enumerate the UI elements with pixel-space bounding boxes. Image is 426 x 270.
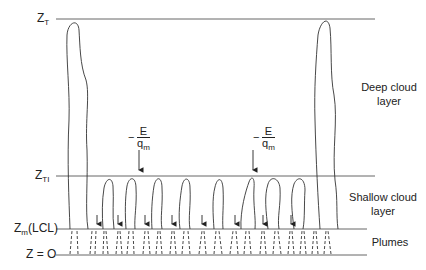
level-label-zti: ZTI [35, 169, 49, 183]
level-label-zm: Zm(LCL) [14, 222, 58, 236]
deep-cloud-right [315, 21, 338, 229]
fraction-denominator: qm [137, 138, 150, 150]
level-label-zt: ZT [37, 12, 49, 26]
region-label-deep: Deep cloud layer [352, 80, 426, 108]
entrainment-label-right: − E qm [262, 126, 275, 150]
region-label-plumes: Plumes [355, 235, 425, 249]
level-subscript: m [21, 228, 28, 237]
shallow-clouds [102, 178, 305, 229]
level-label-z0: Z = O [26, 248, 56, 261]
subsidence-arrows [97, 215, 291, 224]
region-label-shallow: Shallow cloud layer [340, 190, 426, 218]
region-label-line: Shallow cloud [340, 190, 426, 204]
level-subscript: TI [42, 175, 49, 184]
cloud-layer-diagram: ZT ZTI Zm(LCL) Z = O − E qm − E qm Deep … [0, 0, 426, 270]
level-subscript: T [44, 18, 49, 27]
region-label-line: Plumes [355, 235, 425, 249]
diagram-canvas [0, 0, 426, 270]
entrainment-label-left: − E qm [137, 126, 150, 150]
region-label-line: layer [352, 94, 426, 108]
minus-sign: − [253, 132, 259, 143]
denominator-subscript: m [268, 143, 275, 152]
level-suffix: (LCL) [28, 221, 58, 235]
plumes [70, 231, 331, 254]
denominator-subscript: m [143, 143, 150, 152]
region-label-line: Deep cloud [352, 80, 426, 94]
region-label-line: layer [340, 204, 426, 218]
minus-sign: − [128, 132, 134, 143]
level-symbol: Z = O [26, 247, 56, 261]
fraction-denominator: qm [262, 138, 275, 150]
deep-cloud-left [67, 23, 88, 229]
